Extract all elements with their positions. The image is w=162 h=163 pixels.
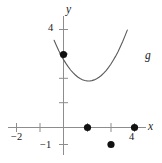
curve-label-g: g	[145, 50, 151, 62]
plot-canvas	[0, 0, 162, 163]
x-tick-label-4: 4	[129, 132, 134, 143]
x-tick-label-neg2: −2	[11, 132, 22, 143]
point-2-neg1	[107, 141, 114, 148]
point-0-3	[60, 51, 67, 58]
y-tick-label-4: 4	[48, 23, 53, 34]
graph-figure: −2 4 4 −1 x y g	[0, 0, 162, 163]
point-1-0	[84, 124, 91, 131]
y-axis-label: y	[66, 4, 71, 16]
y-tick-label-neg1: −1	[40, 140, 51, 151]
x-axis-label: x	[148, 121, 153, 133]
